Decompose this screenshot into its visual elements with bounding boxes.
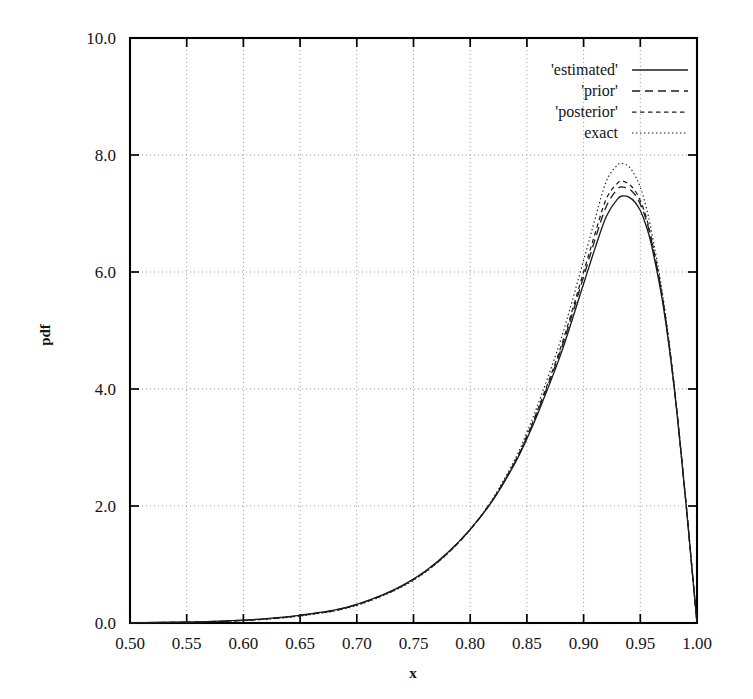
y-axis-title: pdf <box>37 323 53 346</box>
xtick-label-0.80: 0.80 <box>455 634 485 653</box>
xtick-label-0.50: 0.50 <box>115 634 145 653</box>
xtick-label-0.70: 0.70 <box>342 634 372 653</box>
xtick-label-1.00: 1.00 <box>682 634 712 653</box>
ytick-label-0.0: 0.0 <box>95 614 116 633</box>
figure-container: 0.500.550.600.650.700.750.800.850.900.95… <box>0 0 753 699</box>
xtick-label-0.65: 0.65 <box>285 634 315 653</box>
legend-label-estimated: 'estimated' <box>551 61 618 78</box>
ytick-label-8.0: 8.0 <box>95 146 116 165</box>
x-axis-title: x <box>409 665 417 681</box>
x-axis-tick-labels: 0.500.550.600.650.700.750.800.850.900.95… <box>115 634 712 653</box>
legend-label-prior: 'prior' <box>581 82 618 100</box>
gridlines-horizontal <box>130 155 697 623</box>
xtick-label-0.55: 0.55 <box>172 634 202 653</box>
legend-label-exact: exact <box>584 124 618 141</box>
xtick-label-0.85: 0.85 <box>512 634 542 653</box>
xtick-label-0.95: 0.95 <box>625 634 655 653</box>
ytick-label-4.0: 4.0 <box>95 380 116 399</box>
ytick-label-2.0: 2.0 <box>95 497 116 516</box>
ytick-label-6.0: 6.0 <box>95 263 116 282</box>
xtick-label-0.75: 0.75 <box>399 634 429 653</box>
curve-prior <box>130 187 697 623</box>
y-axis-tick-labels: 0.02.04.06.08.010.0 <box>86 29 116 633</box>
ytick-label-10.0: 10.0 <box>86 29 116 48</box>
xtick-label-0.90: 0.90 <box>569 634 599 653</box>
legend-label-posterior: 'posterior' <box>555 103 618 121</box>
legend: 'estimated''prior''posterior'exact <box>551 61 688 141</box>
xtick-label-0.60: 0.60 <box>229 634 259 653</box>
pdf-line-chart: 0.500.550.600.650.700.750.800.850.900.95… <box>0 0 753 699</box>
gridlines-vertical <box>187 38 641 623</box>
